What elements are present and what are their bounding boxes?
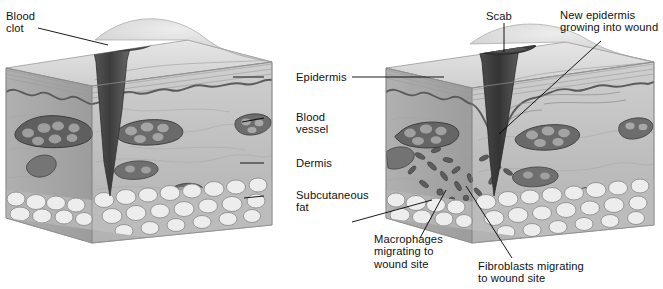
- leader-blood-clot: [38, 28, 108, 45]
- right-skin-block: [386, 24, 654, 243]
- left-skin-block: [6, 19, 272, 243]
- skin-wound-illustration: [0, 0, 663, 289]
- label-scab: Scab: [486, 10, 512, 22]
- label-fibroblasts: Fibroblasts migrating to wound site: [478, 260, 584, 285]
- figure-canvas: Blood clot Epidermis Blood vessel Dermis…: [0, 0, 663, 289]
- label-dermis: Dermis: [296, 157, 332, 169]
- label-blood-clot: Blood clot: [6, 10, 35, 35]
- label-macrophages: Macrophages migrating to wound site: [374, 233, 443, 270]
- label-blood-vessel: Blood vessel: [296, 111, 328, 136]
- label-subcutaneous-fat: Subcutaneous fat: [296, 189, 369, 214]
- label-epidermis: Epidermis: [296, 71, 347, 83]
- label-new-epidermis: New epidermis growing into wound: [560, 9, 658, 34]
